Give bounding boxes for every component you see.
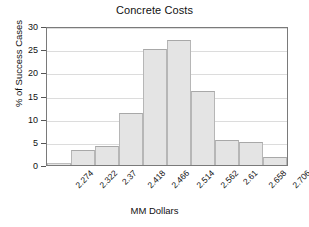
y-tick-mark	[41, 166, 46, 167]
x-tick-label: 2.37	[120, 168, 139, 187]
y-tick-label: 30	[28, 22, 38, 32]
y-tick-label: 20	[28, 68, 38, 78]
x-tick-label: 2.322	[97, 168, 119, 190]
bar-series	[47, 28, 287, 165]
y-tick-label: 25	[28, 45, 38, 55]
x-tick-label: 2.706	[291, 168, 309, 190]
bar	[191, 91, 215, 165]
bar	[95, 146, 119, 165]
x-tick-label: 2.658	[266, 168, 288, 190]
y-axis-ticks: 051015202530	[0, 0, 46, 193]
plot-area	[46, 27, 288, 166]
x-tick-label: 2.562	[218, 168, 240, 190]
x-axis-label: MM Dollars	[0, 205, 309, 216]
x-tick-label: 2.514	[194, 168, 216, 190]
chart-container: Concrete Costs % of Success Cases 051015…	[0, 0, 309, 227]
y-tick-label: 10	[28, 115, 38, 125]
bar	[143, 49, 167, 165]
x-tick-label: 2.274	[73, 168, 95, 190]
y-tick-label: 15	[28, 92, 38, 102]
bar	[47, 163, 71, 165]
bar	[167, 40, 191, 165]
bar	[263, 157, 287, 165]
x-tick-label: 2.418	[145, 168, 167, 190]
bar	[239, 142, 263, 165]
bar	[119, 113, 143, 165]
x-tick-label: 2.466	[170, 168, 192, 190]
y-tick-label: 5	[33, 138, 38, 148]
bar	[71, 150, 95, 165]
y-tick-label: 0	[33, 161, 38, 171]
chart-title: Concrete Costs	[0, 4, 309, 16]
x-tick-label: 2.61	[241, 168, 260, 187]
bar	[215, 140, 239, 165]
